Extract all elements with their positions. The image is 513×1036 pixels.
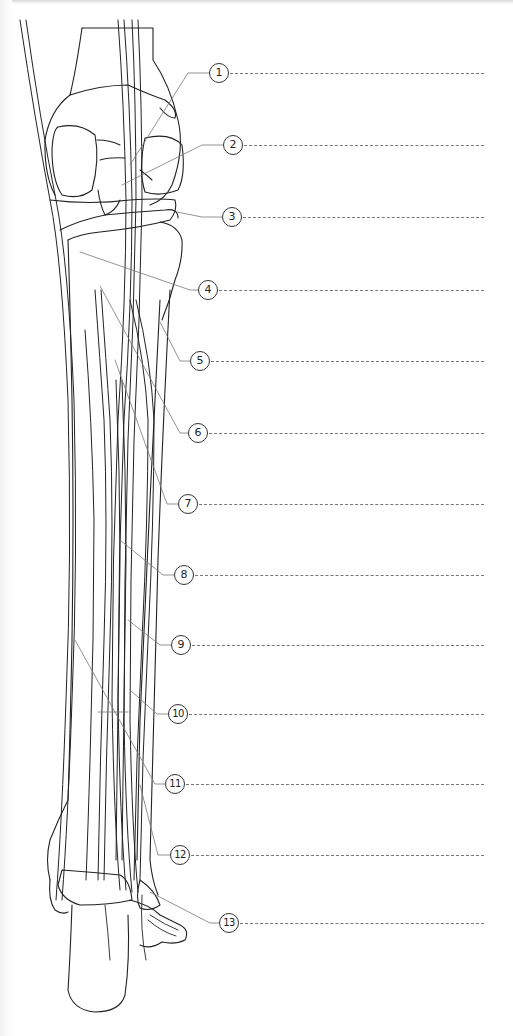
answer-line[interactable]	[195, 575, 484, 576]
answer-line[interactable]	[209, 433, 484, 434]
answer-line[interactable]	[244, 145, 484, 146]
callout-badge: 13	[219, 913, 239, 933]
callout-badge: 9	[171, 635, 191, 655]
calcaneus	[68, 905, 129, 1012]
tibia-shaft-lateral	[137, 300, 160, 860]
foot-lateral	[130, 900, 187, 947]
callout-badge: 7	[178, 494, 198, 514]
answer-line[interactable]	[199, 504, 484, 505]
talus	[58, 870, 132, 905]
callout-badge: 6	[188, 423, 208, 443]
callout-badge: 5	[190, 351, 210, 371]
answer-line[interactable]	[243, 217, 484, 218]
fibula-head	[160, 222, 182, 320]
callout-badge: 11	[165, 774, 185, 794]
medial-condyle	[52, 126, 97, 197]
callout-badge: 10	[168, 704, 188, 724]
tibia-plateau	[50, 199, 176, 240]
answer-line[interactable]	[192, 645, 484, 646]
leg-anatomy-drawing	[0, 0, 513, 1036]
answer-line[interactable]	[219, 290, 484, 291]
answer-line[interactable]	[240, 923, 484, 924]
callout-badge: 8	[174, 565, 194, 585]
callout-badge: 3	[222, 207, 242, 227]
answer-line[interactable]	[211, 361, 484, 362]
callout-badge: 4	[198, 280, 218, 300]
callout-badge: 12	[170, 845, 190, 865]
pointer-lines	[75, 73, 223, 923]
fibula-shaft	[150, 290, 170, 895]
callout-badge: 1	[209, 63, 229, 83]
nerve-bundle	[20, 20, 154, 900]
callout-badge: 2	[223, 135, 243, 155]
answer-line[interactable]	[189, 714, 484, 715]
answer-line[interactable]	[230, 73, 484, 74]
answer-line[interactable]	[186, 784, 484, 785]
answer-line[interactable]	[191, 855, 484, 856]
